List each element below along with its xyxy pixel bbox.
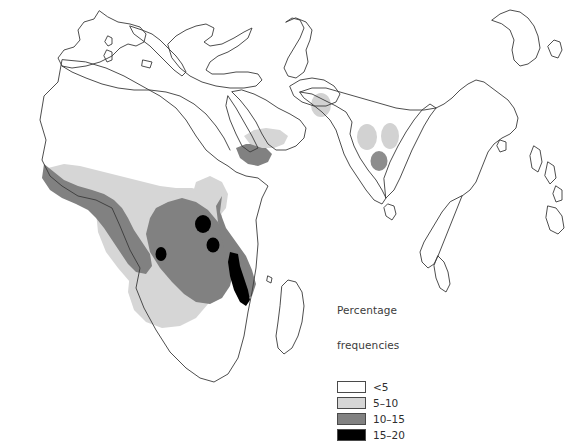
bottom-caption [26,393,326,403]
coast-comoros [267,276,272,283]
legend-title: Percentage frequencies [337,282,405,374]
legend-label-10-15: 10–15 [373,413,405,425]
coast-indochina [420,196,462,268]
legend-items: <5 5–10 10–15 15–20 [337,379,405,443]
coast-china-north [492,10,540,66]
coast-borneo-edge [546,206,564,234]
legend-title-line1: Percentage [337,305,405,317]
coast-philippines-1 [530,146,542,172]
legend-swatch-10-15 [337,413,366,425]
coast-balkans-turkey [168,24,262,88]
legend-label-15-20: 15–20 [373,429,405,441]
legend-swatch-15-20 [337,429,366,441]
legend-swatch-lt5 [337,381,366,393]
spot-tanzania-15-20 [156,247,167,261]
blob-southeast-india-10-15 [371,151,388,171]
coast-malay [434,256,450,292]
coast-sicily [142,60,152,68]
legend-label-5-10: 5–10 [373,397,398,409]
coast-philippines-3 [553,186,562,202]
blob-central-india-5-10 [357,124,377,150]
legend: Percentage frequencies <5 5–10 10–15 15–… [337,282,405,443]
coast-hainan [497,140,506,152]
legend-item-10-15: 10–15 [337,411,405,427]
coast-korea-japan [548,40,562,58]
coast-iberia [58,11,146,68]
coast-india-east [384,104,436,198]
legend-title-line2: frequencies [337,340,405,352]
coast-corsica-sardinia [105,36,112,46]
legend-item-15-20: 15–20 [337,427,405,443]
coast-italy [130,26,186,76]
legend-label-lt5: <5 [373,381,388,393]
coast-sardinia [104,50,112,62]
legend-item-5-10: 5–10 [337,395,405,411]
coast-sri-lanka [384,204,396,220]
coast-caspian [284,18,312,78]
legend-swatch-5-10 [337,397,366,409]
spot-kenya-15-20 [207,238,220,253]
legend-item-lt5: <5 [337,379,405,395]
coast-madagascar [276,280,304,354]
coast-philippines-2 [545,162,556,184]
blob-east-india-5-10 [381,123,399,149]
coast-east-asia [436,80,518,196]
spot-uganda-15-20 [195,215,211,233]
